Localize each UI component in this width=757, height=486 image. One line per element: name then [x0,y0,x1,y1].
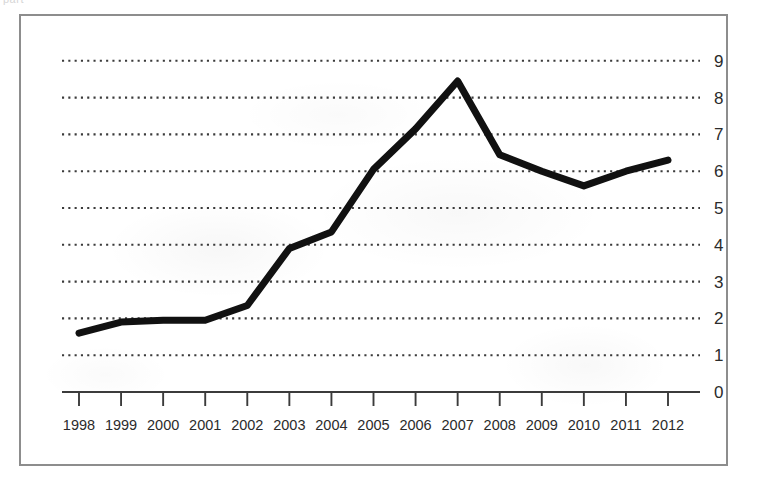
x-tick-marks-group [79,393,668,406]
screenshot-page: part 0123456789 199819992000200120022003… [0,0,757,486]
gridlines-group [62,61,700,355]
line-chart-plot [0,0,757,486]
